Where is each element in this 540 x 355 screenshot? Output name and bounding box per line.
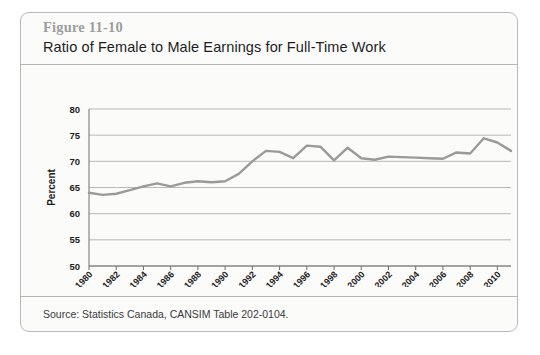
svg-text:1992: 1992 xyxy=(237,269,258,287)
svg-text:2002: 2002 xyxy=(373,269,394,287)
figure-header: Figure 11-10 Ratio of Female to Male Ear… xyxy=(21,13,517,64)
gridlines-group xyxy=(89,109,511,266)
figure-number: Figure 11-10 xyxy=(43,19,123,36)
svg-text:1988: 1988 xyxy=(182,269,203,287)
svg-text:1980: 1980 xyxy=(73,269,94,287)
svg-text:50: 50 xyxy=(69,261,80,272)
svg-text:1994: 1994 xyxy=(264,269,285,287)
svg-text:1986: 1986 xyxy=(155,269,176,287)
svg-text:70: 70 xyxy=(69,156,80,167)
y-axis-label: Percent xyxy=(46,168,57,205)
source-note: Source: Statistics Canada, CANSIM Table … xyxy=(43,308,289,320)
data-series-line xyxy=(89,138,511,195)
svg-text:2000: 2000 xyxy=(345,269,366,287)
svg-text:80: 80 xyxy=(69,104,80,115)
footer-divider xyxy=(21,296,517,297)
svg-text:1984: 1984 xyxy=(128,269,149,287)
svg-text:2008: 2008 xyxy=(454,269,475,287)
svg-text:75: 75 xyxy=(69,130,80,141)
figure-card: Figure 11-10 Ratio of Female to Male Ear… xyxy=(20,12,518,332)
svg-text:1982: 1982 xyxy=(100,269,121,287)
x-axis-ticks xyxy=(89,266,497,270)
chart-plot-region: 50556065707580 1980198219841986198819901… xyxy=(21,65,517,285)
svg-text:60: 60 xyxy=(69,208,80,219)
svg-text:1990: 1990 xyxy=(209,269,230,287)
svg-text:1998: 1998 xyxy=(318,269,339,287)
svg-text:2004: 2004 xyxy=(400,269,421,287)
line-chart: 50556065707580 1980198219841986198819901… xyxy=(21,65,518,287)
y-axis-tick-labels: 50556065707580 xyxy=(69,104,80,272)
x-axis-tick-labels: 1980198219841986198819901992199419961998… xyxy=(73,269,503,287)
svg-text:1996: 1996 xyxy=(291,269,312,287)
svg-text:55: 55 xyxy=(69,234,80,245)
svg-text:65: 65 xyxy=(69,182,80,193)
figure-title: Ratio of Female to Male Earnings for Ful… xyxy=(43,39,386,55)
svg-text:2006: 2006 xyxy=(427,269,448,287)
svg-text:2010: 2010 xyxy=(482,269,503,287)
